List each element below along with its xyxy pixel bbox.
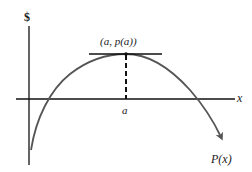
curve-label: P(x) [211, 153, 232, 165]
profit-maximum-diagram: $ (a, p(a)) a x P(x) [0, 0, 252, 172]
y-axis-label: $ [24, 11, 30, 23]
profit-curve [31, 54, 221, 150]
diagram-canvas [0, 0, 252, 172]
peak-point-label: (a, p(a)) [100, 36, 137, 47]
x-axis-label: x [237, 92, 242, 104]
peak-x-tick-label: a [122, 105, 128, 116]
maximum-point [124, 52, 128, 56]
